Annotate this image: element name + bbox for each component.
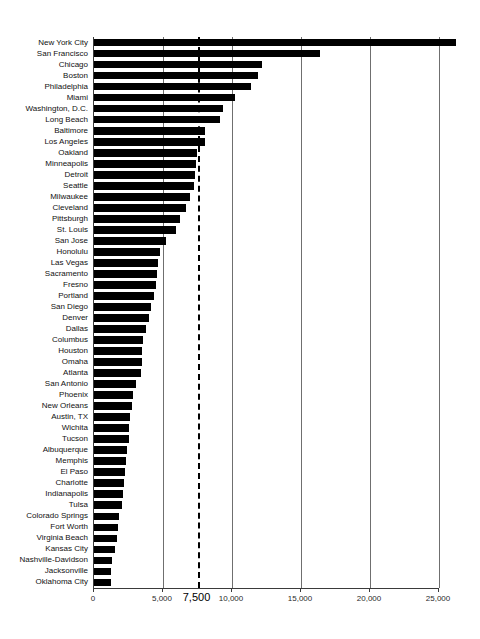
plot-area [93,37,438,588]
bar [94,226,176,234]
bar [94,248,160,256]
bar-row [94,325,438,333]
bar-row [94,72,438,80]
bar [94,160,196,168]
bar-row [94,116,438,124]
bar-row [94,413,438,421]
x-axis: 05,00010,00015,00020,00025,0007,500 [93,588,438,618]
bar-row [94,479,438,487]
category-label: Charlotte [56,478,88,487]
bar [94,479,124,487]
category-label: San Diego [51,302,88,311]
category-label: Boston [63,71,88,80]
bar-row [94,248,438,256]
bar [94,369,141,377]
bar-row [94,204,438,212]
x-tick-10000 [231,588,232,592]
bar-row [94,380,438,388]
bar [94,303,151,311]
bar-row [94,39,438,47]
bar-row [94,535,438,543]
bar [94,314,149,322]
bar [94,237,166,245]
category-label: Philadelphia [44,82,88,91]
x-tick-label: 20,000 [357,594,381,604]
bar-row [94,182,438,190]
bar [94,204,186,212]
bar [94,391,133,399]
bar-row [94,226,438,234]
category-label: Dallas [66,324,88,333]
bar [94,105,223,113]
category-label: Nashville-Davidson [20,555,88,564]
bar-row [94,303,438,311]
bar [94,435,129,443]
bar [94,39,456,47]
category-label: El Paso [60,467,88,476]
bar-row [94,546,438,554]
x-tick-label-threshold: 7,500 [183,592,211,602]
bar [94,292,154,300]
bar-row [94,490,438,498]
category-label: Atlanta [63,368,88,377]
bar-row [94,171,438,179]
category-label: Virginia Beach [37,533,88,542]
bar [94,446,127,454]
bar [94,116,220,124]
bar-row [94,524,438,532]
x-tick-label: 10,000 [219,594,243,604]
category-label: Baltimore [54,126,88,135]
bar [94,281,156,289]
bar [94,127,205,135]
bar-row [94,193,438,201]
category-label: Washington, D.C. [26,104,88,113]
category-label: Jacksonville [45,566,88,575]
category-label: Los Angeles [44,137,88,146]
bar-row [94,138,438,146]
bar-row [94,468,438,476]
category-label: Austin, TX [51,412,88,421]
bar [94,524,118,532]
bar-row [94,568,438,576]
bar-row [94,579,438,587]
bar [94,358,142,366]
bar-row [94,61,438,69]
bar [94,501,122,509]
category-label: Tulsa [69,500,88,509]
category-label: Omaha [62,357,88,366]
category-label: Portland [58,291,88,300]
category-label: San Jose [55,236,88,245]
bar [94,579,111,587]
x-tick-5000 [162,588,163,592]
bar-row [94,402,438,410]
bar-row [94,237,438,245]
x-tick-15000 [300,588,301,592]
bar [94,193,190,201]
bar-row [94,149,438,157]
category-label: Oakland [58,148,88,157]
bar [94,182,194,190]
bar-row [94,83,438,91]
bar-row [94,391,438,399]
x-axis-line [93,588,438,589]
bar-row [94,435,438,443]
bar [94,380,136,388]
bar [94,94,235,102]
category-label: Tucson [62,434,88,443]
category-label: Indianapolis [45,489,88,498]
category-label: New Orleans [42,401,88,410]
category-label: Fort Worth [50,522,88,531]
x-tick-label: 25,000 [426,594,450,604]
bar [94,535,117,543]
bar-row [94,446,438,454]
category-label: Cleveland [52,203,88,212]
bar-row [94,557,438,565]
category-label: Long Beach [45,115,88,124]
bar-row [94,259,438,267]
bar [94,215,180,223]
bar [94,61,262,69]
category-label: Milwaukee [50,192,88,201]
bar-rows [94,37,438,588]
bar [94,468,125,476]
category-label: Miami [67,93,88,102]
